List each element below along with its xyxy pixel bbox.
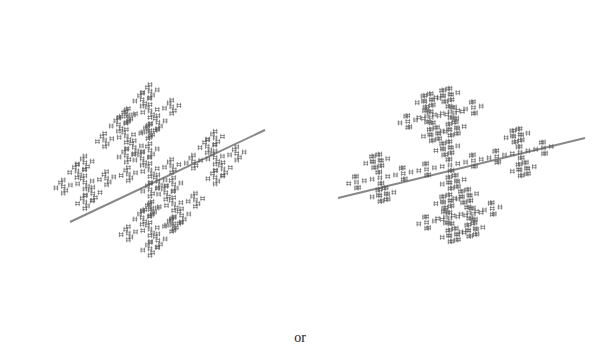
fractal-left-graphic <box>0 0 300 340</box>
fractal-right-graphic <box>300 0 600 340</box>
figure: or <box>0 0 600 352</box>
separator-or-label: or <box>0 330 600 346</box>
fractal-right-panel <box>300 0 600 340</box>
fractal-left-panel <box>0 0 300 340</box>
fractal-motifs <box>346 86 553 245</box>
fractal-motifs <box>54 82 247 258</box>
